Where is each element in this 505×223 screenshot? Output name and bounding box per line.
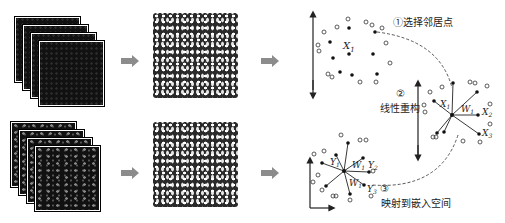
svg-text:Y2: Y2: [368, 160, 378, 171]
step-3-number: ③: [380, 183, 389, 194]
svg-text:X3: X3: [481, 128, 492, 139]
step-1-label: ①选择邻居点: [393, 16, 453, 28]
x1-label: X1: [342, 40, 355, 54]
neighbor-cluster: X1: [313, 14, 392, 96]
lle-schematic: X1 ①选择邻居点 X1 W1 X2: [0, 0, 505, 223]
svg-text:W1: W1: [352, 160, 365, 171]
dashed-mapping-curve: [377, 32, 452, 88]
dashed-mapping-curve: [372, 135, 458, 185]
svg-text:X1: X1: [439, 99, 450, 110]
svg-text:W1: W1: [461, 104, 474, 115]
step-2-label: 线性重构: [380, 102, 420, 114]
svg-text:W1: W1: [349, 178, 362, 189]
step-3-label: 映射到嵌入空间: [381, 197, 451, 209]
step-2-number: ②: [396, 88, 405, 99]
reconstruction-cluster: X1 W1 X2 X3: [418, 80, 492, 158]
embedding-cluster: Y1 W1 Y2 W1 Y3: [310, 133, 378, 208]
svg-text:X2: X2: [481, 107, 492, 118]
